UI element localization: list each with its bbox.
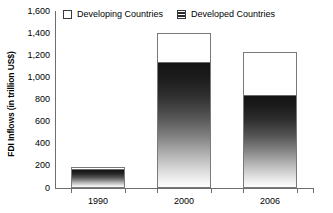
x-tick-label-2006: 2006 <box>240 196 300 206</box>
x-axis-tick <box>157 188 158 193</box>
legend-item-developed: Developed Countries <box>177 9 275 19</box>
y-tick-label: 400 <box>8 139 50 148</box>
x-tick-label-2000: 2000 <box>154 196 214 206</box>
y-tick-label: 200 <box>8 161 50 170</box>
y-tick-label: 1,200 <box>8 51 50 60</box>
x-axis-line <box>55 188 314 189</box>
y-tick-label: 600 <box>8 117 50 126</box>
bar-2006 <box>243 52 297 188</box>
x-tick-label-1990: 1990 <box>68 196 128 206</box>
y-tick-label: 1,000 <box>8 73 50 82</box>
white-box-icon <box>63 10 72 19</box>
fdi-inflows-stacked-bar-chart: FDI Inflows (in trillion US$) 0200400600… <box>0 0 333 213</box>
x-axis-tick <box>125 188 126 193</box>
y-tick-label: 1,400 <box>8 29 50 38</box>
bar-segment-developed-2006 <box>244 95 296 187</box>
y-tick-label: 0 <box>8 184 50 193</box>
x-axis-tick <box>211 188 212 193</box>
x-axis-tick <box>313 188 314 193</box>
x-axis-tick <box>71 188 72 193</box>
y-tick-label: 1,600 <box>8 7 50 16</box>
y-tick-label: 800 <box>8 95 50 104</box>
legend-label-developing: Developing Countries <box>77 9 163 19</box>
x-axis-tick <box>243 188 244 193</box>
chart-legend: Developing Countries Developed Countries <box>63 9 275 19</box>
x-axis-tick <box>297 188 298 193</box>
bar-1990 <box>71 167 125 188</box>
bar-2000 <box>157 33 211 188</box>
hatched-box-icon <box>177 10 186 19</box>
legend-item-developing: Developing Countries <box>63 9 163 19</box>
bar-segment-developed-1990 <box>72 169 124 187</box>
bar-segment-developed-2000 <box>158 62 210 187</box>
legend-label-developed: Developed Countries <box>191 9 275 19</box>
